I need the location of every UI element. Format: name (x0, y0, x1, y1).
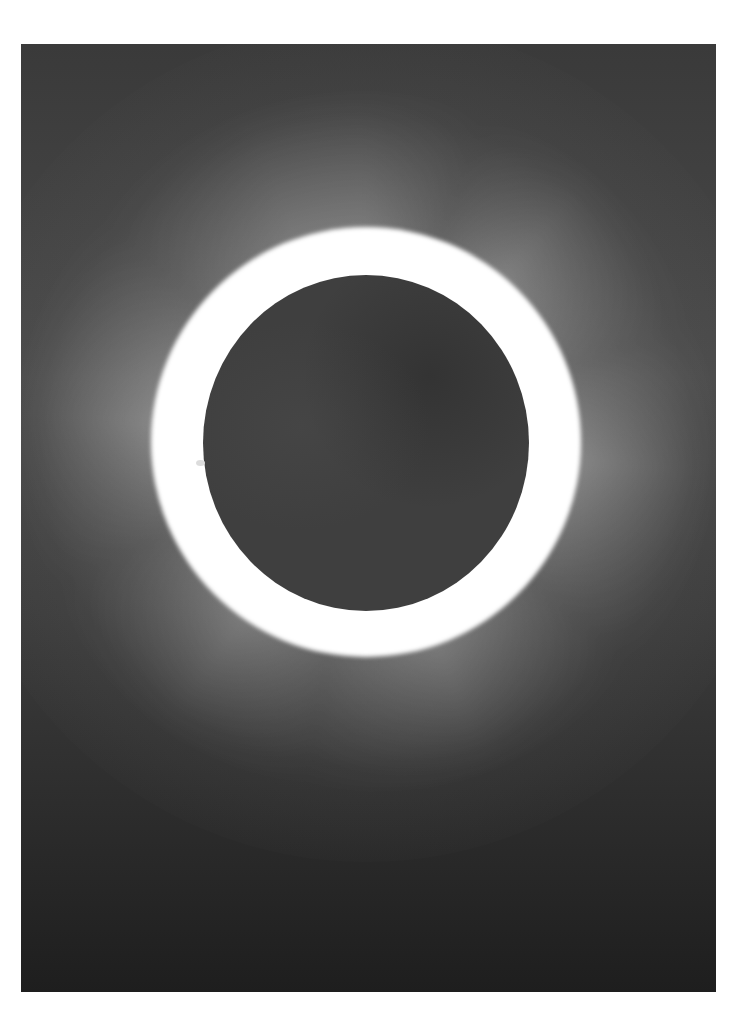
solar-prominence (196, 460, 205, 466)
eclipse-photo (21, 44, 716, 992)
moon-disc (203, 275, 529, 611)
